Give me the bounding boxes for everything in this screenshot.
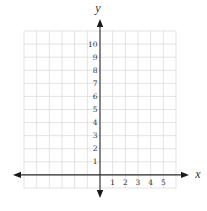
x-tick-label: 4 <box>148 178 153 187</box>
x-axis-label: x <box>194 167 201 181</box>
y-tick-label: 5 <box>93 105 98 114</box>
x-axis-right-arrow-icon <box>181 172 189 178</box>
coordinate-plane: 12345 12345678910 x y <box>0 0 207 211</box>
y-tick-label: 10 <box>88 40 98 49</box>
y-tick-label: 8 <box>93 66 98 75</box>
y-tick-label: 9 <box>93 53 98 62</box>
x-tick-label: 5 <box>161 178 166 187</box>
y-tick-label: 3 <box>93 131 98 140</box>
x-tick-label: 2 <box>123 178 128 187</box>
y-axis-down-arrow-icon <box>97 190 103 198</box>
y-tick-labels: 12345678910 <box>88 40 98 167</box>
x-tick-labels: 12345 <box>110 178 166 187</box>
y-axis-up-arrow-icon <box>97 19 103 27</box>
y-tick-label: 6 <box>93 92 98 101</box>
axes <box>13 19 189 198</box>
y-tick-label: 2 <box>93 144 98 153</box>
y-tick-label: 7 <box>93 79 98 88</box>
x-axis-left-arrow-icon <box>13 172 21 178</box>
y-tick-label: 1 <box>93 157 98 166</box>
y-tick-label: 4 <box>93 118 98 127</box>
x-tick-label: 1 <box>110 178 115 187</box>
y-axis-label: y <box>94 1 101 15</box>
x-tick-label: 3 <box>136 178 141 187</box>
